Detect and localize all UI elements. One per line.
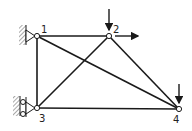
loads	[109, 9, 179, 103]
member-2-3	[37, 36, 109, 108]
node-4	[176, 106, 181, 111]
node-label-1: 1	[41, 24, 47, 35]
truss-diagram: 1 2 3 4	[0, 0, 192, 131]
pin-support-node-1	[19, 25, 35, 45]
member-3-4	[37, 108, 179, 109]
truss-members	[37, 36, 179, 109]
node-label-3: 3	[39, 113, 45, 124]
node-label-4: 4	[173, 114, 179, 125]
node-1	[34, 33, 39, 38]
node-label-2: 2	[113, 24, 119, 35]
roller-support-node-3	[13, 96, 35, 117]
member-1-4	[37, 36, 179, 109]
member-2-4	[109, 36, 179, 109]
node-3	[34, 105, 39, 110]
node-2	[106, 33, 111, 38]
